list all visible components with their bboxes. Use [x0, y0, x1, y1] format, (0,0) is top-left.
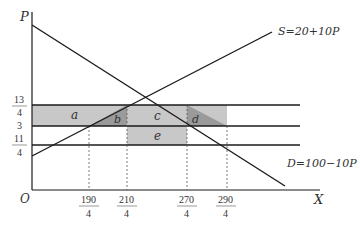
supply-label: S=20+10P — [278, 25, 340, 38]
svg-text:4: 4 — [17, 107, 22, 118]
region-a-label: a — [71, 108, 78, 122]
svg-text:4: 4 — [223, 208, 228, 219]
svg-text:11: 11 — [14, 133, 24, 144]
demand-label: D=100−10P — [286, 157, 357, 170]
x-tick-290-4: 290 4 — [216, 194, 236, 219]
y-tick-11-4: 11 4 — [12, 133, 27, 158]
region-c-label: c — [154, 109, 161, 123]
x-tick-190-4: 190 4 — [79, 194, 99, 219]
svg-text:290: 290 — [218, 194, 233, 205]
region-b-label: b — [114, 113, 121, 126]
region-e-label: e — [154, 129, 161, 143]
y-tick-13-4: 13 4 — [12, 94, 27, 118]
region-d-label: d — [192, 113, 199, 126]
x-tick-210-4: 210 4 — [117, 194, 137, 219]
svg-text:4: 4 — [86, 208, 91, 219]
svg-text:4: 4 — [184, 208, 189, 219]
welfare-diagram: P X O S=20+10P D=100−10P 13 4 3 11 4 190… — [0, 0, 360, 228]
svg-text:270: 270 — [179, 194, 194, 205]
svg-text:4: 4 — [17, 147, 22, 158]
y-axis-label: P — [19, 9, 29, 24]
x-tick-270-4: 270 4 — [177, 194, 197, 219]
svg-text:13: 13 — [14, 94, 24, 105]
origin-label: O — [20, 192, 30, 206]
svg-text:4: 4 — [124, 208, 129, 219]
x-axis-label: X — [313, 192, 324, 207]
svg-text:190: 190 — [81, 194, 96, 205]
y-tick-3: 3 — [17, 120, 22, 131]
svg-text:210: 210 — [119, 194, 134, 205]
